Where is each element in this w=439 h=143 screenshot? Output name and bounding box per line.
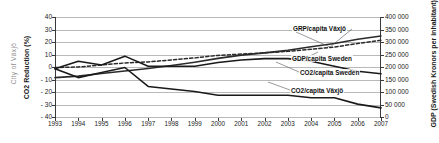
left-axis-title: CO2 Reduction (%): [23, 20, 30, 116]
x-tick-mark: [125, 118, 126, 121]
x-tick-mark: [288, 118, 289, 121]
watermark-city-of-vaxjo: City of Växjö: [10, 29, 17, 99]
right-tick-mark: [381, 55, 384, 56]
x-tick-mark: [241, 118, 242, 121]
right-tick-mark: [381, 105, 384, 106]
left-tick-label: - 20: [30, 88, 52, 95]
right-tick-mark: [381, 92, 384, 93]
right-tick-mark: [381, 30, 384, 31]
x-tick-mark: [78, 118, 79, 121]
x-tick-mark: [334, 118, 335, 121]
x-tick-mark: [358, 118, 359, 121]
series-lines: [55, 17, 381, 118]
x-tick-mark: [148, 118, 149, 121]
left-tick-label: 0: [30, 63, 52, 70]
x-tick-mark: [381, 118, 382, 121]
left-tick-label: - 40: [30, 113, 52, 120]
right-tick-label: 50 000: [385, 101, 425, 108]
x-tick-mark: [311, 118, 312, 121]
right-tick-label: 350 000: [385, 26, 425, 33]
right-tick-label: 400 000: [385, 13, 425, 20]
right-tick-mark: [381, 67, 384, 68]
series-label-gdp-sweden: GDP/capita Sweden: [291, 55, 353, 62]
left-tick-label: 30: [30, 26, 52, 33]
right-axis-title: GDP (Swedish Kronors per inhabitant): [430, 4, 437, 128]
right-tick-mark: [381, 80, 384, 81]
left-tick-label: - 10: [30, 76, 52, 83]
right-tick-label: 200 000: [385, 63, 425, 70]
x-tick-label: 2007: [366, 120, 396, 127]
chart-figure: City of Växjö CO2 Reduction (%) GDP (Swe…: [0, 0, 439, 143]
right-tick-mark: [381, 42, 384, 43]
series-label-grp-vaxjo: GRP/capita Växjö: [292, 25, 347, 32]
right-tick-mark: [381, 17, 384, 18]
label-leader-line: [296, 32, 330, 47]
right-tick-label: 100 000: [385, 88, 425, 95]
left-tick-label: 40: [30, 13, 52, 20]
right-tick-label: 0: [385, 113, 425, 120]
left-tick-label: - 30: [30, 101, 52, 108]
series-label-co2-vaxjo: CO2/capita Växjö: [290, 87, 344, 94]
x-tick-mark: [265, 118, 266, 121]
left-tick-label: 10: [30, 51, 52, 58]
x-tick-mark: [171, 118, 172, 121]
x-tick-mark: [218, 118, 219, 121]
plot-area: [55, 17, 381, 118]
x-tick-mark: [55, 118, 56, 121]
series-label-co2-sweden: CO2/capita Sweden: [299, 69, 360, 76]
label-leader-line: [276, 62, 299, 72]
x-tick-mark: [102, 118, 103, 121]
right-tick-label: 250 000: [385, 51, 425, 58]
left-tick-label: 20: [30, 38, 52, 45]
x-tick-mark: [195, 118, 196, 121]
right-tick-label: 150 000: [385, 76, 425, 83]
label-leader-line: [268, 82, 290, 90]
right-tick-label: 300 000: [385, 38, 425, 45]
